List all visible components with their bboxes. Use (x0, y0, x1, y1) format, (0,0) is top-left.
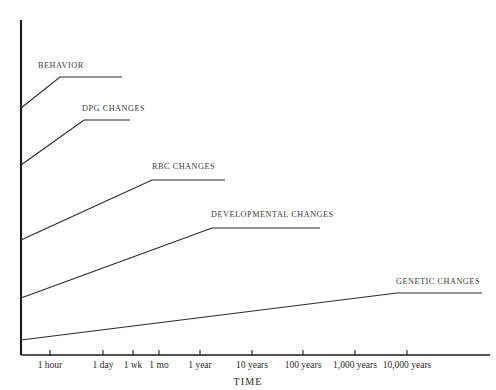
x-tick-label-3: 1 mo (149, 361, 168, 371)
series-line-genetic-changes (21, 293, 482, 340)
series-label-behavior: BEHAVIOR (38, 62, 84, 70)
x-tick-label-2: 1 wk (124, 361, 143, 371)
series-line-developmental-changes (21, 228, 320, 298)
axes-group (21, 20, 490, 355)
series-label-dpg-changes: DPG CHANGES (82, 105, 145, 113)
series-label-genetic-changes: GENETIC CHANGES (396, 278, 480, 286)
chart-canvas (0, 0, 496, 390)
x-axis-title: TIME (234, 377, 263, 387)
series-label-rbc-changes: RBC CHANGES (152, 163, 215, 171)
x-tick-label-6: 100 years (285, 361, 322, 371)
series-line-dpg-changes (21, 120, 130, 165)
x-tick-label-0: 1 hour (38, 361, 63, 371)
series-line-rbc-changes (21, 180, 225, 240)
chart-figure: BEHAVIOR DPG CHANGES RBC CHANGES DEVELOP… (0, 0, 496, 390)
series-label-developmental-changes: DEVELOPMENTAL CHANGES (211, 211, 334, 219)
x-tick-label-4: 1 year (188, 361, 211, 371)
series-lines (21, 77, 482, 340)
x-tick-label-8: 10,000 years (383, 361, 432, 371)
x-tick-label-1: 1 day (93, 361, 114, 371)
x-tick-label-7: 1,000 years (333, 361, 377, 371)
x-tick-label-5: 10 years (236, 361, 268, 371)
y-axis-label-clipped: e (0, 332, 10, 350)
